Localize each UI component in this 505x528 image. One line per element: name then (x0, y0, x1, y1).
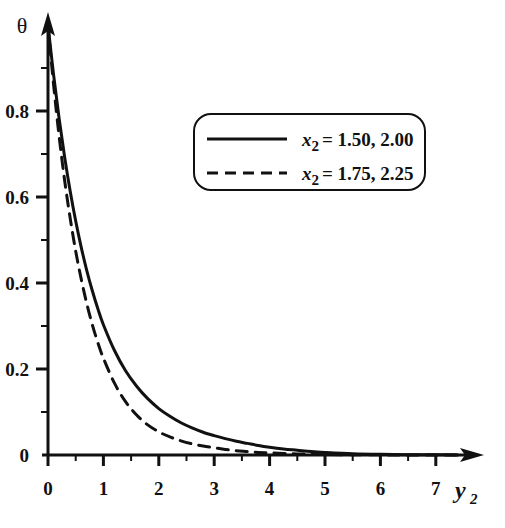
y-tick-label: 0.4 (5, 273, 29, 294)
legend-label-0-eq: = 1.50, 2.00 (322, 129, 414, 150)
y-tick-labels: 00.20.40.60.8 (5, 101, 29, 466)
legend-label-1-eq: = 1.75, 2.25 (322, 163, 414, 184)
x-tick-label: 7 (431, 478, 441, 499)
x-tick-label: 4 (265, 478, 275, 499)
x-axis-title-subscript: 2 (469, 491, 478, 507)
x-tick-label: 6 (376, 478, 386, 499)
y-tick-label: 0 (20, 445, 30, 466)
x-tick-label: 5 (320, 478, 330, 499)
figure-caption (0, 517, 505, 528)
legend-label-0-sub: 2 (312, 138, 320, 154)
x-axis-title-var: y (452, 477, 466, 503)
legend-label-1-var: x (301, 163, 312, 184)
legend[interactable]: x2= 1.50, 2.00 x2= 1.75, 2.25 (194, 114, 425, 190)
x-tick-labels: 01234567 (43, 478, 441, 499)
legend-label-1-sub: 2 (312, 172, 320, 188)
y-axis-title: θ (17, 13, 28, 38)
series-curve-0 (48, 25, 458, 455)
y-tick-label: 0.6 (5, 187, 29, 208)
y-tick-label: 0.2 (5, 359, 29, 380)
chart-canvas: 01234567 00.20.40.60.8 θ y 2 x2= 1.50, 2… (0, 0, 505, 528)
x-tick-label: 1 (99, 478, 109, 499)
axes-group (41, 12, 484, 462)
figure-container: 01234567 00.20.40.60.8 θ y 2 x2= 1.50, 2… (0, 0, 505, 528)
series-curve-1 (48, 25, 458, 455)
x-tick-label: 2 (154, 478, 164, 499)
x-tick-label: 3 (209, 478, 219, 499)
y-tick-label: 0.8 (5, 101, 29, 122)
x-tick-label: 0 (43, 478, 53, 499)
data-series-group (48, 25, 458, 455)
legend-label-0-var: x (301, 129, 312, 150)
x-axis-title: y 2 (452, 477, 478, 507)
